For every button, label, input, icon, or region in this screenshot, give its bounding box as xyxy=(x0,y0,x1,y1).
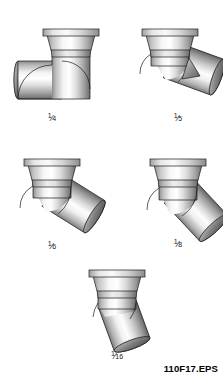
label-eighth-bend: 1⁄8 xyxy=(174,238,182,249)
spigot-open-end xyxy=(14,61,18,99)
hub-rim-cap xyxy=(150,159,206,166)
label-denominator: 6 xyxy=(52,243,56,250)
pipe-elbow-inner-edge xyxy=(20,186,33,208)
hub-bell-body xyxy=(93,276,141,291)
label-sixteenth-bend: 1⁄16 xyxy=(111,350,123,361)
label-sixth-bend: 1⁄6 xyxy=(48,240,56,251)
label-quarter-bend: 1⁄4 xyxy=(48,112,56,123)
hub-bell-body xyxy=(154,165,202,180)
label-denominator: 16 xyxy=(115,353,123,360)
hub-rim-cap xyxy=(43,29,99,36)
fitting-fifth-bend xyxy=(140,29,223,96)
label-denominator: 4 xyxy=(52,115,56,122)
fitting-quarter-bend xyxy=(14,29,99,99)
hub-rim-cap xyxy=(89,270,145,277)
label-denominator: 5 xyxy=(178,115,182,122)
pipe-elbow-inner-edge xyxy=(140,54,151,74)
pipe-bends-illustration xyxy=(0,0,223,387)
hub-bell-body xyxy=(47,35,95,50)
hub-bell-body xyxy=(146,35,194,50)
label-denominator: 8 xyxy=(178,241,182,248)
fitting-sixth-bend xyxy=(20,159,108,235)
fitting-eighth-bend xyxy=(147,159,223,244)
label-fifth-bend: 1⁄5 xyxy=(174,112,182,123)
hub-bell-body xyxy=(28,165,76,180)
figure-file-id: 110F17.EPS xyxy=(164,363,218,374)
pipe-elbow-inner-edge xyxy=(93,303,98,317)
pipe-elbow-inner-edge xyxy=(147,188,159,210)
hub-rim-cap xyxy=(24,159,80,166)
fitting-sixteenth-bend xyxy=(89,270,151,355)
hub-rim-cap xyxy=(142,29,198,36)
